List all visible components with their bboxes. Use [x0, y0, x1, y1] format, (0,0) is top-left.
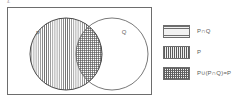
- legend-swatch-horizontal-hatch-icon: [163, 25, 190, 38]
- set-q-label: Q: [122, 29, 127, 35]
- legend-item-label: P∩Q: [197, 28, 211, 35]
- legend-swatch-vertical-hatch-icon: [163, 46, 190, 59]
- legend-swatch-cross-hatch-icon: [163, 67, 190, 80]
- legend: P∩Q P P∪(P∩Q)=P: [163, 24, 235, 87]
- legend-item: P∩Q: [163, 24, 235, 38]
- set-p-label: P: [36, 30, 40, 36]
- legend-item: P∪(P∩Q)=P: [163, 66, 235, 80]
- legend-item: P: [163, 45, 235, 59]
- legend-item-label: P∪(P∩Q)=P: [197, 70, 231, 77]
- legend-item-label: P: [197, 49, 201, 56]
